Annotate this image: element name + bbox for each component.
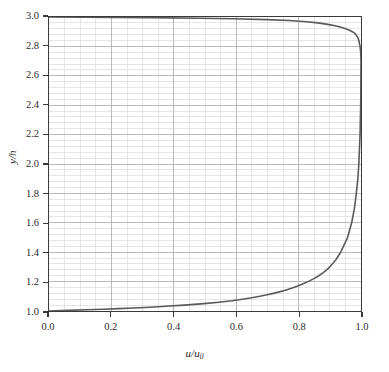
y-tick-label: 1.8 — [0, 188, 39, 199]
y-tick-mark — [43, 193, 48, 194]
y-tick-mark — [43, 134, 48, 135]
x-tick-mark — [299, 312, 300, 317]
x-tick-mark — [110, 312, 111, 317]
y-tick-label: 2.8 — [0, 40, 39, 51]
y-axis-label: y/h — [6, 151, 18, 164]
y-tick-label: 1.4 — [0, 248, 39, 259]
y-tick-label: 2.2 — [0, 129, 39, 140]
y-tick-mark — [43, 104, 48, 105]
x-tick-mark — [236, 312, 237, 317]
x-axis-label: u/u0 — [0, 347, 389, 359]
y-tick-label: 3.0 — [0, 11, 39, 22]
y-axis-label-numerator: y — [6, 159, 18, 164]
y-tick-mark — [43, 252, 48, 253]
y-tick-label: 2.4 — [0, 100, 39, 111]
y-tick-label: 1.6 — [0, 218, 39, 229]
x-tick-label: 0.0 — [41, 322, 54, 333]
y-tick-mark — [43, 282, 48, 283]
velocity-profile-curve — [49, 17, 361, 311]
y-tick-mark — [43, 223, 48, 224]
velocity-profile-figure: 1.01.21.41.61.82.02.22.42.62.83.0 0.00.2… — [0, 0, 389, 372]
plot-area — [48, 16, 362, 312]
y-tick-mark — [43, 75, 48, 76]
x-tick-label: 0.4 — [167, 322, 180, 333]
y-tick-label: 1.0 — [0, 307, 39, 318]
y-tick-label: 1.2 — [0, 277, 39, 288]
y-tick-mark — [43, 15, 48, 16]
y-tick-mark — [43, 163, 48, 164]
x-tick-label: 1.0 — [355, 322, 368, 333]
x-tick-mark — [173, 312, 174, 317]
y-axis-label-denominator: h — [6, 151, 18, 157]
x-tick-label: 0.2 — [104, 322, 117, 333]
x-tick-mark — [361, 312, 362, 317]
y-tick-mark — [43, 45, 48, 46]
y-tick-label: 2.6 — [0, 70, 39, 81]
x-axis-label-subscript: 0 — [200, 352, 204, 361]
x-tick-label: 0.6 — [230, 322, 243, 333]
x-axis-label-denominator: u — [194, 347, 200, 359]
x-tick-label: 0.8 — [293, 322, 306, 333]
y-axis-label-slash: / — [6, 156, 18, 159]
x-tick-mark — [47, 312, 48, 317]
